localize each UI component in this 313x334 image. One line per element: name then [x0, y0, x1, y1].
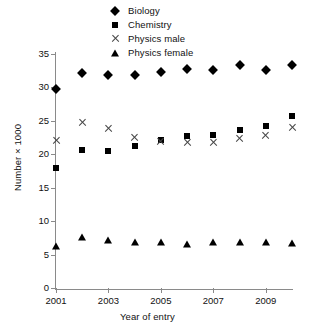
legend-item-biology: Biology — [108, 4, 193, 17]
chart-legend: Biology Chemistry Physics male Physics f… — [108, 4, 193, 60]
diamond-marker-icon — [108, 4, 122, 17]
y-tick-mark — [51, 221, 56, 222]
legend-label: Physics male — [128, 32, 185, 45]
x-tick-mark — [108, 288, 109, 293]
y-tick-label: 15 — [27, 181, 49, 194]
y-tick-mark — [51, 188, 56, 189]
y-tick-label: 30 — [27, 80, 49, 93]
y-tick-mark — [51, 154, 56, 155]
y-axis-label: Number × 1000 — [12, 113, 23, 203]
x-tick-mark — [161, 288, 162, 293]
legend-label: Chemistry — [128, 18, 172, 31]
y-tick-label: 20 — [27, 147, 49, 160]
x-tick-label: 2009 — [249, 295, 283, 307]
y-tick-label: 10 — [27, 214, 49, 227]
plot-area: 0510152025303520012003200520072009 — [56, 54, 292, 288]
x-tick-mark — [266, 288, 267, 293]
y-tick-label: 0 — [27, 281, 49, 294]
x-tick-mark — [213, 288, 214, 293]
y-tick-label: 25 — [27, 114, 49, 127]
cross-marker-icon — [108, 32, 122, 45]
x-axis-line — [55, 289, 293, 290]
x-tick-label: 2001 — [39, 295, 73, 307]
y-tick-mark — [51, 121, 56, 122]
legend-label: Biology — [128, 4, 160, 17]
y-tick-mark — [51, 54, 56, 55]
y-tick-mark — [51, 255, 56, 256]
x-tick-mark — [56, 288, 57, 293]
y-tick-label: 5 — [27, 248, 49, 261]
x-axis-label: Year of entry — [120, 311, 175, 322]
square-marker-icon — [108, 18, 122, 31]
legend-item-physics-male: Physics male — [108, 32, 193, 45]
scatter-chart: Biology Chemistry Physics male Physics f… — [0, 0, 313, 334]
x-tick-label: 2005 — [144, 295, 178, 307]
x-tick-label: 2007 — [196, 295, 230, 307]
legend-item-chemistry: Chemistry — [108, 18, 193, 31]
x-tick-label: 2003 — [91, 295, 125, 307]
y-tick-label: 35 — [27, 47, 49, 60]
